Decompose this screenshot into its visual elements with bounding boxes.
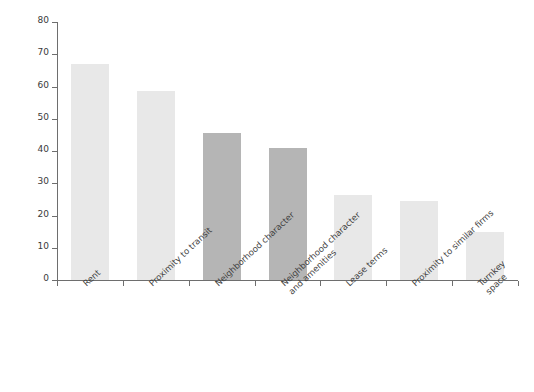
y-tick-label: 0 bbox=[43, 273, 49, 283]
y-tick-label: 40 bbox=[38, 144, 49, 154]
y-tick-label: 30 bbox=[38, 176, 49, 186]
y-tick-label: 60 bbox=[38, 80, 49, 90]
y-tick-label: 80 bbox=[38, 15, 49, 25]
bar[interactable] bbox=[137, 91, 175, 280]
y-tick-label: 10 bbox=[38, 241, 49, 251]
bars-layer bbox=[57, 22, 518, 280]
x-axis-labels: RentProximity to transitNeighborhood cha… bbox=[57, 281, 534, 392]
y-tick-label: 20 bbox=[38, 209, 49, 219]
y-tick-label: 70 bbox=[38, 47, 49, 57]
bar[interactable] bbox=[203, 133, 241, 280]
bar[interactable] bbox=[71, 64, 109, 280]
bar-chart: Percentage of firms ranking a factor in … bbox=[0, 0, 534, 392]
y-tick-label: 50 bbox=[38, 112, 49, 122]
plot-area: 01020304050607080 bbox=[57, 22, 518, 280]
